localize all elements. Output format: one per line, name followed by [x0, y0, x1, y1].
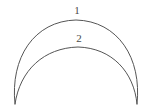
lune-figure: 1 2 — [0, 0, 153, 108]
inner-arc-label: 2 — [76, 32, 82, 44]
outer-arc-label: 1 — [74, 4, 80, 16]
lune-diagram-canvas: 1 2 — [0, 0, 153, 108]
inner-arc-path — [15, 47, 137, 104]
